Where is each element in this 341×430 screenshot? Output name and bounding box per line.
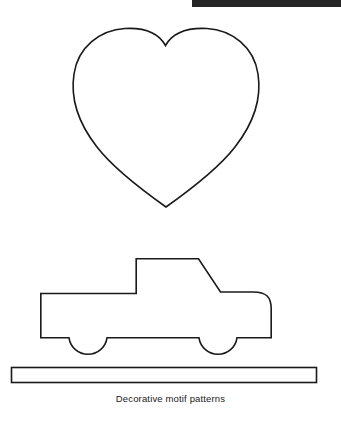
figure-page: Decorative motif patterns <box>0 0 341 430</box>
ground-bar-motif <box>12 368 317 383</box>
truck-outline-path <box>41 259 271 354</box>
ground-bar-rect <box>12 368 317 383</box>
heart-outline-path <box>73 28 259 207</box>
heart-motif <box>73 28 259 207</box>
motif-illustration <box>0 0 341 430</box>
truck-motif <box>41 259 271 354</box>
figure-caption: Decorative motif patterns <box>0 393 341 405</box>
